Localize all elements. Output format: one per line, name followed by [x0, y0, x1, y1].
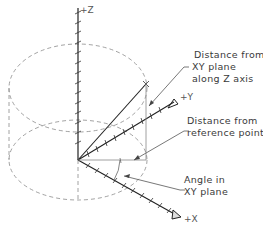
angle-arc [114, 160, 120, 180]
z-distance-line-3: along Z axis [192, 73, 254, 84]
y-axis [78, 102, 174, 160]
z-axis-label: +Z [80, 5, 94, 15]
y-axis-label: +Y [180, 92, 194, 102]
angle-line-1: Angle in [184, 174, 225, 185]
y-axis-arrow-icon [168, 99, 178, 108]
leader-arrows [124, 100, 154, 178]
ref-distance-line-2: reference point [187, 127, 263, 138]
x-axis [78, 160, 178, 216]
y-axis-ticks [87, 107, 161, 157]
z-distance-line-1: Distance from [194, 49, 263, 60]
point-vector [78, 84, 146, 160]
x-axis-arrow-icon [172, 210, 181, 219]
z-distance-annotation: Distance from XY plane along Z axis [192, 49, 263, 84]
ref-distance-line-1: Distance from [187, 115, 258, 126]
ref-distance-annotation: Distance from reference point [187, 115, 263, 138]
cylindrical-coordinate-diagram: +Z +Y +X [0, 0, 263, 234]
angle-line-2: XY plane [184, 186, 228, 197]
x-axis-label: +X [184, 214, 198, 224]
angle-annotation: Angle in XY plane [184, 174, 228, 197]
angle-leader [124, 176, 185, 190]
z-distance-line-2: XY plane [192, 61, 236, 72]
